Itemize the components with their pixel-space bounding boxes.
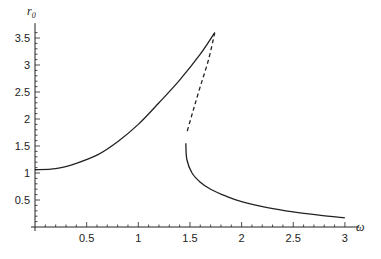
y-tick-label: 0.5 xyxy=(15,194,30,206)
x-tick-label: 1.5 xyxy=(182,232,197,244)
y-tick-label: 3.5 xyxy=(15,32,30,44)
ticks xyxy=(35,33,345,227)
y-tick-label: 3 xyxy=(24,59,30,71)
axes xyxy=(31,23,359,231)
x-tick-label: 1 xyxy=(135,232,141,244)
x-tick-label: 2 xyxy=(239,232,245,244)
y-tick-label: 2.5 xyxy=(15,86,30,98)
unstable-branch-curve xyxy=(187,33,215,133)
y-tick-label: 2 xyxy=(24,113,30,125)
y-axis-label: r0 xyxy=(27,4,36,20)
x-tick-label: 3 xyxy=(342,232,348,244)
stable-branch-curve xyxy=(35,33,215,170)
chart: 0.511.522.530.511.522.533.5 ω r0 xyxy=(0,0,381,259)
curves xyxy=(35,33,345,218)
x-axis-label: ω xyxy=(356,220,364,234)
y-tick-label: 1.5 xyxy=(15,140,30,152)
stable-branch-curve xyxy=(186,143,345,218)
x-tick-label: 2.5 xyxy=(286,232,301,244)
x-tick-label: 0.5 xyxy=(79,232,94,244)
y-tick-label: 1 xyxy=(24,167,30,179)
